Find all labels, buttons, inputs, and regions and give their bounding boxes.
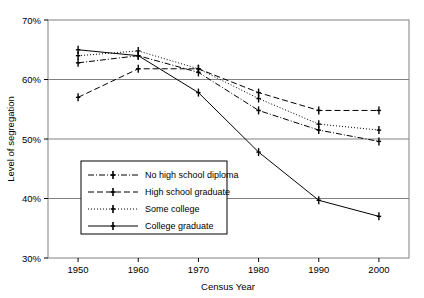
x-tick-label-2000: 2000 (368, 264, 389, 275)
y-tick-label-40%: 40% (22, 193, 42, 204)
segregation-line-chart: 30%40%50%60%70% 195019601970198019902000… (0, 0, 424, 298)
legend-label-college-graduate: College graduate (145, 221, 214, 231)
x-tick-label-1960: 1960 (128, 264, 149, 275)
legend-label-no-high-school-diploma: No high school diploma (145, 170, 239, 180)
y-axis-title: Level of segregation (5, 96, 16, 182)
y-tick-label-60%: 60% (22, 74, 42, 85)
chart-background (0, 0, 424, 298)
legend-label-high-school-graduate: High school graduate (145, 187, 230, 197)
chart-canvas: 30%40%50%60%70% 195019601970198019902000… (0, 0, 424, 298)
x-tick-label-1970: 1970 (188, 264, 209, 275)
y-tick-label-50%: 50% (22, 134, 42, 145)
x-tick-label-1980: 1980 (248, 264, 269, 275)
x-tick-label-1990: 1990 (308, 264, 329, 275)
y-tick-label-70%: 70% (22, 15, 42, 26)
x-tick-label-1950: 1950 (68, 264, 89, 275)
x-axis-title: Census Year (201, 281, 255, 292)
legend: No high school diplomaHigh school gradua… (81, 161, 239, 234)
legend-label-some-college: Some college (145, 204, 200, 214)
y-tick-label-30%: 30% (22, 253, 42, 264)
